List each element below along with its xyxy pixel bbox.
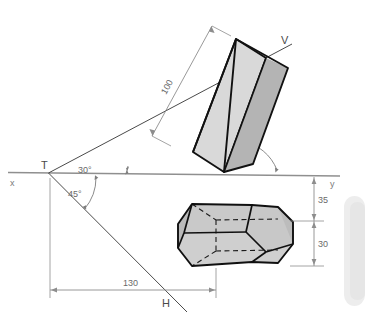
- angle-label-30: 30°: [78, 165, 92, 175]
- dimension-label-35: 35: [318, 195, 328, 205]
- label-point-H: H: [162, 297, 170, 309]
- dimension-label-130: 130: [123, 278, 138, 288]
- drawing-background: [0, 0, 365, 327]
- label-point-V: V: [281, 34, 289, 46]
- axis-label-y: y: [330, 179, 335, 189]
- dimension-label-30: 30: [318, 239, 328, 249]
- label-point-T: T: [41, 159, 48, 171]
- page-edge-artifact: [344, 196, 365, 306]
- angle-label-45: 45°: [68, 189, 82, 199]
- technical-drawing-canvas: x y T V H 30° 45° 60°: [0, 0, 365, 327]
- axis-label-x: x: [10, 178, 15, 188]
- prism-face-upper-left-fill: [184, 204, 252, 233]
- hex-prism-group: [178, 204, 293, 266]
- edge-mid-horizontal: [184, 232, 246, 233]
